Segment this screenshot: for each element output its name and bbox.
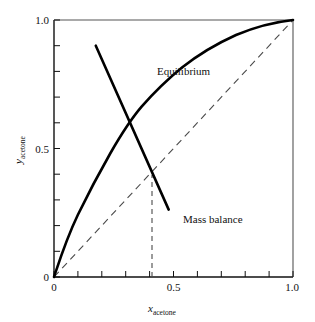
y-tick-label-0.5: 0.5 <box>35 143 49 155</box>
y-tick-label-0: 0 <box>44 271 50 283</box>
y-axis-label-sub: acetone <box>18 135 27 159</box>
chart-svg: 0 0.5 1.0 0 0.5 1.0 xacetone yacetone Eq… <box>0 0 315 322</box>
y-tick-label-1.0: 1.0 <box>35 14 49 26</box>
vle-chart-figure: 0 0.5 1.0 0 0.5 1.0 xacetone yacetone Eq… <box>0 0 315 322</box>
x-axis-label-sub: acetone <box>153 308 177 317</box>
x-tick-label-0: 0 <box>51 281 57 293</box>
x-tick-label-0.5: 0.5 <box>167 281 181 293</box>
x-tick-label-1.0: 1.0 <box>285 281 299 293</box>
mass-balance-annotation-label: Mass balance <box>183 213 243 225</box>
equilibrium-annotation-label: Equilibrium <box>157 65 211 77</box>
